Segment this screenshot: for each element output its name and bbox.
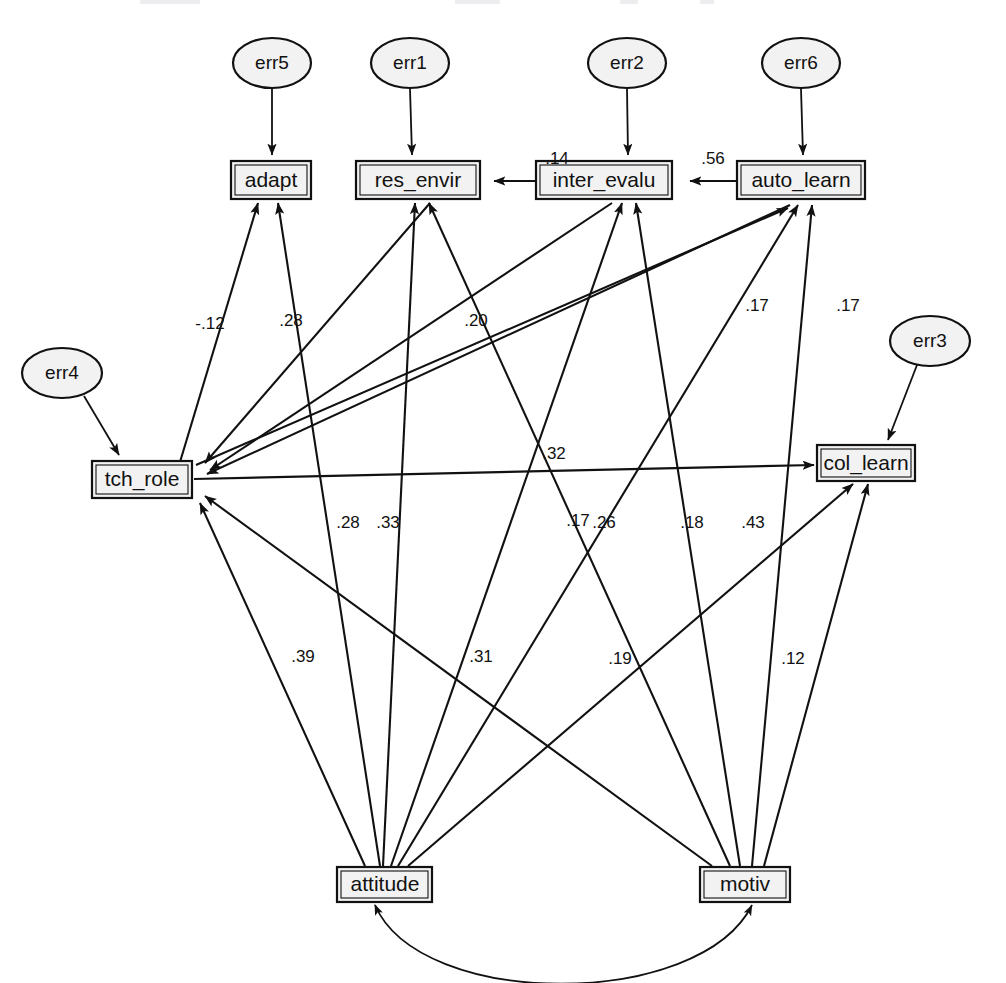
coef-attitude-col_learn-lower: .19 <box>608 649 632 668</box>
sem-path-diagram: err5 err1 err2 err6 err4 err3 <box>0 0 1006 983</box>
node-adapt-label: adapt <box>245 168 298 191</box>
coefficient-labels: .14 .56 -.12 .28 .20 .17 .17 .32 .28 .33… <box>195 149 859 668</box>
node-attitude-label: attitude <box>351 872 420 895</box>
path-motiv-inter_evalu <box>636 203 740 866</box>
observed-variable-nodes: adapt res_envir inter_evalu auto_learn <box>92 161 915 902</box>
error-arrows <box>84 89 917 455</box>
node-err3-label: err3 <box>913 330 947 351</box>
coef-tch_role-col_learn: .32 <box>542 444 566 463</box>
node-adapt: adapt <box>231 161 311 199</box>
node-tch_role: tch_role <box>92 461 192 498</box>
coef-inter_evalu-res_envir: .14 <box>545 149 569 168</box>
node-res_envir: res_envir <box>356 161 480 199</box>
coef-attitude-auto_learn: .17 <box>745 296 769 315</box>
node-err1-label: err1 <box>393 52 427 73</box>
node-tch_role-label: tch_role <box>105 467 180 491</box>
coef-motiv-res_envir: .26 <box>592 513 616 532</box>
error-arrow-err2-inter_evalu <box>627 89 628 155</box>
coef-attitude-tch_role: .39 <box>291 647 315 666</box>
coef-motiv-col_learn-upper: .43 <box>741 513 765 532</box>
paths-from-motiv <box>429 203 868 866</box>
error-term-nodes: err5 err1 err2 err6 err4 err3 <box>22 38 970 398</box>
node-err6: err6 <box>762 38 840 88</box>
coef-motiv-tch_role: .31 <box>469 647 493 666</box>
path-attitude-col_learn <box>408 484 853 866</box>
node-err2-label: err2 <box>610 52 644 73</box>
node-err6-label: err6 <box>784 52 818 73</box>
covariance-attitude-motiv <box>375 905 752 983</box>
error-arrow-err3-col_learn <box>888 365 917 440</box>
path-attitude-tch_role <box>200 503 365 866</box>
node-err2: err2 <box>588 38 666 88</box>
path-attitude-inter_evalu <box>391 203 622 866</box>
node-err4: err4 <box>22 348 102 398</box>
path-attitude-adapt <box>278 203 380 866</box>
error-arrow-err1-res_envir <box>410 89 412 155</box>
node-motiv: motiv <box>700 867 790 902</box>
node-err4-label: err4 <box>45 362 79 383</box>
coef-attitude-res_envir: .28 <box>336 513 360 532</box>
paths-into-tch-role <box>200 203 790 866</box>
node-inter_evalu-label: inter_evalu <box>553 168 656 192</box>
error-arrow-err6-auto_learn <box>801 89 803 155</box>
node-col_learn: col_learn <box>817 445 915 481</box>
node-res_envir-label: res_envir <box>375 168 461 192</box>
path-tch_role-col_learn <box>194 465 814 479</box>
error-arrow-err4-tch_role <box>84 396 119 455</box>
node-err5: err5 <box>233 38 311 88</box>
coef-motiv-col_learn-lower: .12 <box>781 649 805 668</box>
coef-motiv-inter_evalu: .18 <box>680 513 704 532</box>
path-inter_evalu-tch_role <box>210 203 612 470</box>
path-attitude-res_envir <box>383 203 415 866</box>
node-err3: err3 <box>890 316 970 366</box>
coef-tch_role-auto_learn: .20 <box>464 311 488 330</box>
node-motiv-label: motiv <box>720 872 771 895</box>
coef-auto_learn-inter_evalu: .56 <box>701 149 725 168</box>
node-err5-label: err5 <box>255 52 289 73</box>
node-auto_learn: auto_learn <box>737 161 865 199</box>
coef-attitude-col_learn: .17 <box>566 511 590 530</box>
node-col_learn-label: col_learn <box>823 451 908 475</box>
coef-tch_role-adapt: -.12 <box>195 314 224 333</box>
path-motiv-col_learn <box>764 484 868 866</box>
coef-motiv-auto_learn: .17 <box>836 296 860 315</box>
node-auto_learn-label: auto_learn <box>751 168 850 192</box>
node-err1: err1 <box>371 38 449 88</box>
coef-attitude-inter_evalu: .33 <box>376 513 400 532</box>
coef-attitude-adapt: .28 <box>279 311 303 330</box>
node-attitude: attitude <box>337 867 432 902</box>
